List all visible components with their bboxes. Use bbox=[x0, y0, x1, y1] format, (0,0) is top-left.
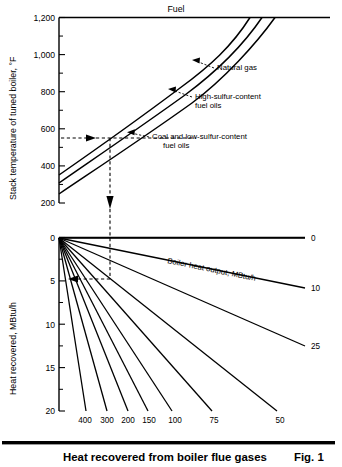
annotation-high-sulfur-label: High-sulfur-content bbox=[195, 92, 262, 101]
natural-gas-arrowhead bbox=[192, 58, 200, 64]
upper-ytick-400: 400 bbox=[41, 161, 56, 171]
lower-y-axis-title: Heat recovered, MBtu/h bbox=[8, 302, 18, 395]
fuel-top-label: Fuel bbox=[167, 4, 184, 14]
bottom-label-200: 200 bbox=[121, 416, 135, 425]
lower-ytick-5: 5 bbox=[50, 276, 55, 286]
end-label-0: 0 bbox=[311, 234, 316, 243]
upper-y-axis-title: Stack temperature of tuned boiler, °F bbox=[8, 56, 18, 200]
lower-ytick-15: 15 bbox=[45, 363, 55, 373]
figure-number: Fig. 1 bbox=[294, 451, 324, 463]
ray-100 bbox=[59, 238, 172, 411]
annotation-coal-low-sulfur-label-2: fuel oils bbox=[163, 141, 190, 150]
lower-ytick-10: 10 bbox=[45, 320, 55, 330]
curve-coal-low-sulfur-fuel-oils bbox=[59, 18, 275, 195]
bottom-label-300: 300 bbox=[100, 416, 114, 425]
figure-caption: Heat recovered from boiler flue gases bbox=[63, 451, 267, 463]
lower-ytick-0: 0 bbox=[50, 233, 55, 243]
upper-ytick-600: 600 bbox=[41, 124, 56, 134]
bottom-label-150: 150 bbox=[142, 416, 156, 425]
end-label-10: 10 bbox=[311, 284, 321, 293]
caption-rule bbox=[2, 441, 335, 444]
bottom-label-400: 400 bbox=[78, 416, 92, 425]
lower-ytick-20: 20 bbox=[45, 406, 55, 416]
upper-y-tick-labels: 1,200 1,000 800 600 400 200 bbox=[33, 13, 55, 209]
lower-y-tick-labels: 0 5 10 15 20 bbox=[45, 233, 55, 416]
stack-temp-arrowhead bbox=[86, 135, 96, 142]
lower-bottom-end-labels: 400 300 200 150 100 75 50 bbox=[78, 416, 285, 425]
lower-y-ticks bbox=[59, 238, 65, 412]
bottom-label-100: 100 bbox=[168, 416, 182, 425]
annotation-natural-gas: Natural gas bbox=[192, 58, 257, 73]
annotation-high-sulfur: High-sulfur-content fuel oils bbox=[168, 87, 262, 111]
vertical-drop-arrowhead bbox=[106, 196, 113, 209]
upper-ytick-800: 800 bbox=[41, 87, 56, 97]
high-sulfur-arrowhead bbox=[168, 87, 176, 93]
ray-300 bbox=[59, 238, 107, 411]
upper-ytick-1000: 1,000 bbox=[33, 50, 55, 60]
lower-right-end-labels: 0 10 25 bbox=[311, 234, 321, 351]
bottom-label-50: 50 bbox=[275, 416, 285, 425]
lower-chart: 0 5 10 15 20 Heat recovered, MBtu/h bbox=[8, 233, 321, 425]
end-label-25: 25 bbox=[311, 342, 321, 351]
annotation-natural-gas-label: Natural gas bbox=[217, 63, 257, 72]
figure-container: Fuel 1,200 1,000 bbox=[0, 0, 342, 467]
heat-recovery-chart: Fuel 1,200 1,000 bbox=[0, 0, 342, 467]
upper-ytick-1200: 1,200 bbox=[33, 13, 55, 23]
annotation-coal-low-sulfur-label: Coal and low-sulfur-content bbox=[152, 132, 248, 141]
bottom-label-75: 75 bbox=[209, 416, 219, 425]
upper-ytick-200: 200 bbox=[41, 198, 56, 208]
annotation-high-sulfur-label-2: fuel oils bbox=[195, 101, 222, 110]
boiler-heat-output-label: Boiler heat output, MBtu/h bbox=[167, 256, 257, 283]
annotation-coal-low-sulfur: Coal and low-sulfur-content fuel oils bbox=[127, 129, 248, 150]
